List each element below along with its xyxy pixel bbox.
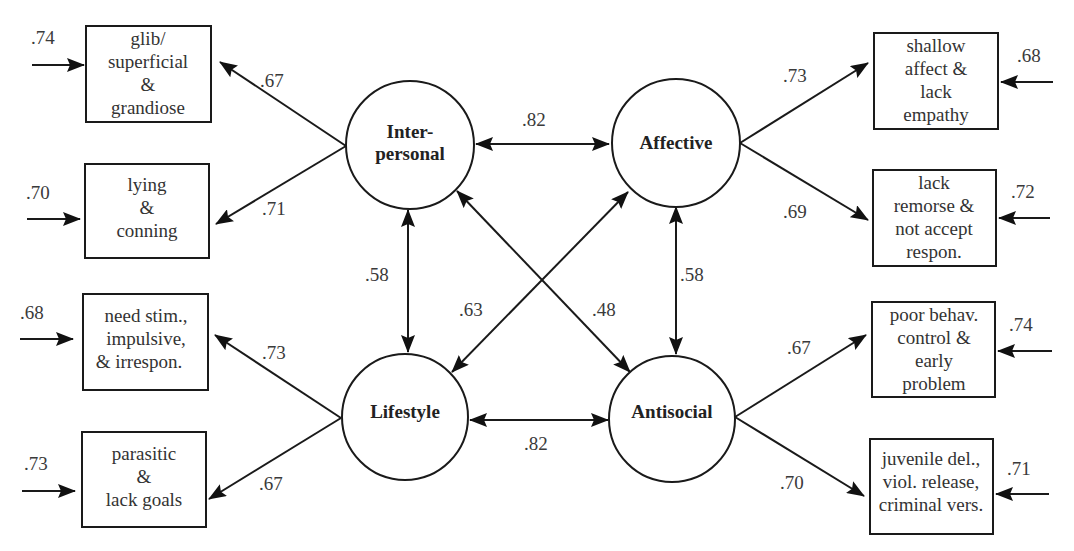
error-term-juvenile: .71 (996, 458, 1049, 494)
indicator-label: problem (902, 373, 966, 394)
indicator-label: lack goals (106, 489, 183, 510)
indicator-label: lying (127, 174, 167, 195)
indicator-label: criminal vers. (879, 494, 983, 515)
factor-label: Inter- (387, 121, 434, 142)
loading-value: .73 (783, 65, 807, 86)
factor-label: Affective (640, 132, 713, 153)
double-arrow-icon (457, 191, 630, 372)
loading-value: .71 (262, 198, 286, 219)
error-term-poor-behav: .74 (998, 314, 1052, 351)
indicator-label: & irrespon. (96, 351, 183, 372)
indicator-label: grandiose (111, 97, 185, 118)
factor-label: personal (375, 143, 445, 164)
error-term-parasitic: .73 (22, 453, 75, 491)
indicator-label: empathy (903, 104, 969, 125)
indicator-label: respon. (906, 241, 961, 262)
indicator-label: lack (920, 81, 952, 102)
error-term-glib: .74 (31, 27, 84, 65)
indicator-label: poor behav. (890, 304, 978, 325)
indicator-lack-remorse-not-accept-respon: lack remorse & not accept respon. (873, 170, 996, 266)
factor-affective: Affective (612, 79, 740, 207)
factor-antisocial: Antisocial (609, 356, 735, 482)
indicator-label: remorse & (894, 195, 975, 216)
loadings-interpersonal: .67 .71 (216, 62, 346, 224)
error-value: .72 (1011, 181, 1035, 202)
indicator-juvenile-viol-release-criminal-vers: juvenile del., viol. release, criminal v… (870, 439, 993, 534)
double-arrow-icon (452, 192, 628, 372)
error-value: .68 (20, 302, 44, 323)
indicator-shallow-affect-lack-empathy: shallow affect & lack empathy (874, 33, 998, 129)
loading-value: .67 (260, 70, 284, 91)
error-term-shallow-affect: .68 (1001, 45, 1053, 82)
error-value: .68 (1017, 45, 1041, 66)
loading-value: .69 (783, 201, 807, 222)
correlation-value: .58 (680, 264, 704, 285)
loading-value: .67 (787, 337, 811, 358)
indicator-label: glib/ (131, 28, 167, 49)
indicator-parasitic-lack-goals: parasitic & lack goals (82, 432, 206, 527)
loadings-antisocial: .67 .70 (735, 335, 866, 496)
factor-interpersonal: Inter- personal (346, 81, 474, 209)
indicator-lying-conning: lying & conning (85, 164, 209, 258)
indicator-label: need stim., (105, 305, 188, 326)
factor-lifestyle: Lifestyle (342, 354, 468, 480)
error-value: .70 (26, 182, 50, 203)
indicator-label: & (141, 74, 156, 95)
indicator-poor-behav-control-early-problem: poor behav. control & early problem (872, 302, 995, 397)
correlation-value: .82 (524, 433, 548, 454)
indicator-glib-superficial-grandiose: glib/ superficial & grandiose (86, 26, 211, 122)
indicator-label: impulsive, (106, 328, 186, 349)
indicator-label: juvenile del., (881, 448, 981, 469)
factor-label: Lifestyle (370, 401, 440, 422)
error-term-lack-remorse: .72 (999, 181, 1050, 218)
correlation-value: .58 (365, 264, 389, 285)
correlation-interpersonal-affective: .82 (476, 109, 609, 144)
indicator-label: conning (116, 220, 178, 241)
loading-value: .70 (780, 472, 804, 493)
error-term-need-stim: .68 (20, 302, 73, 339)
indicator-need-stim-impulsive-irrespon: need stim., impulsive, & irrespon. (83, 294, 208, 390)
correlation-affective-antisocial: .58 (676, 207, 704, 354)
indicator-label: superficial (108, 51, 188, 72)
correlation-value: .63 (459, 299, 483, 320)
error-value: .74 (1009, 314, 1033, 335)
indicator-label: control & (897, 327, 971, 348)
loadings-lifestyle: .73 .67 (209, 335, 341, 499)
indicator-label: early (915, 350, 953, 371)
loadings-affective: .73 .69 (740, 63, 868, 222)
four-factor-path-diagram: .74 .70 .68 .73 .68 .72 .74 .71 glib/ su… (0, 0, 1074, 551)
error-value: .71 (1007, 458, 1031, 479)
error-value: .73 (24, 453, 48, 474)
indicator-label: lack (918, 172, 950, 193)
factor-label: Antisocial (631, 401, 712, 422)
indicator-label: shallow (906, 35, 965, 56)
correlation-interpersonal-lifestyle: .58 (365, 210, 408, 352)
error-term-lying: .70 (26, 182, 80, 219)
indicator-label: affect & (905, 58, 968, 79)
indicator-label: not accept (895, 218, 973, 239)
indicator-label: & (140, 197, 155, 218)
indicator-label: viol. release, (883, 471, 980, 492)
loading-value: .73 (262, 342, 286, 363)
loading-value: .67 (259, 473, 283, 494)
error-value: .74 (31, 27, 55, 48)
correlation-interpersonal-antisocial: .48 (457, 191, 630, 372)
correlation-value: .82 (522, 109, 546, 130)
correlation-lifestyle-antisocial: .82 (470, 420, 608, 454)
correlation-affective-lifestyle: .63 (452, 192, 628, 372)
indicator-label: & (137, 466, 152, 487)
indicator-label: parasitic (112, 443, 176, 464)
correlation-value: .48 (592, 299, 616, 320)
